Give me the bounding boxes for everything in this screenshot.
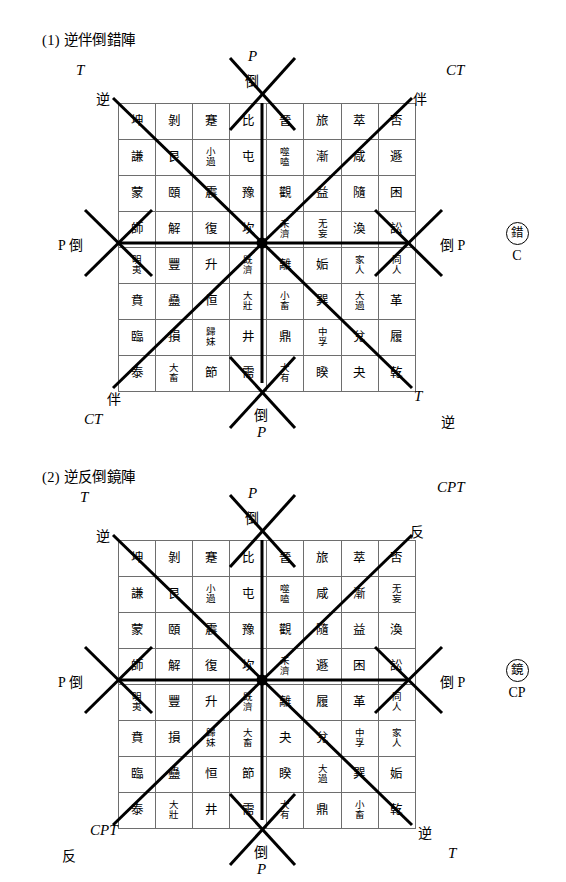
label-right-middle-1: 倒 P xyxy=(440,234,465,254)
matrix-row: 明夷豐升既濟離姤家人同人 xyxy=(119,248,416,284)
hexagram-cell: 恒 xyxy=(193,757,230,793)
figure-2-title: (2) 逆反倒鏡陣 xyxy=(42,465,135,486)
hexagram-cell: 坎 xyxy=(230,649,267,685)
hexagram-cell: 无妄 xyxy=(378,577,415,613)
hexagram-cell: 蹇 xyxy=(193,541,230,577)
figure-1-title: (1) 逆伴倒錯陣 xyxy=(42,28,135,49)
hexagram-cell: 頤 xyxy=(156,176,193,212)
hexagram-cell: 井 xyxy=(193,793,230,829)
hexagram-cell: 家人 xyxy=(341,248,378,284)
hexagram-cell: 大畜 xyxy=(230,721,267,757)
hexagram-cell: 兌 xyxy=(304,721,341,757)
hexagram-cell: 巽 xyxy=(341,757,378,793)
matrix-row: 賁損歸妹大畜夬兌中孚家人 xyxy=(119,721,416,757)
hexagram-cell: 益 xyxy=(304,176,341,212)
hexagram-cell: 謙 xyxy=(119,577,156,613)
hexagram-cell: 小畜 xyxy=(341,793,378,829)
label-bottom-center-inner-1: 倒 xyxy=(254,404,268,424)
hexagram-cell: 剝 xyxy=(156,541,193,577)
hexagram-cell: 比 xyxy=(230,104,267,140)
hexagram-cell: 未濟 xyxy=(267,212,304,248)
badge-ring-char-2: 鏡 xyxy=(506,659,529,682)
hexagram-cell: 咸 xyxy=(304,577,341,613)
hexagram-cell: 大有 xyxy=(267,793,304,829)
hexagram-cell: 乾 xyxy=(378,356,415,392)
hexagram-cell: 解 xyxy=(156,649,193,685)
hexagram-cell: 艮 xyxy=(156,140,193,176)
matrix-row: 賁蠱恒大壯小畜巽大過革 xyxy=(119,284,416,320)
hexagram-cell: 豫 xyxy=(230,176,267,212)
matrix-row: 明夷豐升既濟離履革同人 xyxy=(119,685,416,721)
hexagram-cell: 需 xyxy=(230,793,267,829)
hexagram-cell: 大壯 xyxy=(230,284,267,320)
hexagram-cell: 巽 xyxy=(304,284,341,320)
hexagram-cell: 震 xyxy=(193,176,230,212)
hexagram-cell: 損 xyxy=(156,721,193,757)
label-bottom-left-outer-1: CT xyxy=(84,411,102,428)
hexagram-cell: 同人 xyxy=(378,685,415,721)
label-top-right-inner-1: 伴 xyxy=(413,88,427,108)
label-top-center-outer-2: P xyxy=(248,485,257,502)
hexagram-cell: 家人 xyxy=(378,721,415,757)
hexagram-cell: 師 xyxy=(119,649,156,685)
hexagram-cell: 渙 xyxy=(341,212,378,248)
label-bottom-right-outer-1: 逆 xyxy=(441,411,455,431)
label-bottom-right-inner-2: 逆 xyxy=(418,822,432,842)
hexagram-cell: 夬 xyxy=(341,356,378,392)
hexagram-cell: 蠱 xyxy=(156,757,193,793)
matrix-row: 師解復坎未濟遯困訟 xyxy=(119,649,416,685)
matrix-row: 謙艮小過屯噬嗑漸咸遯 xyxy=(119,140,416,176)
label-top-center-inner-1: 倒 xyxy=(245,70,259,90)
hexagram-cell: 泰 xyxy=(119,356,156,392)
hexagram-cell: 姤 xyxy=(304,248,341,284)
hexagram-cell: 升 xyxy=(193,248,230,284)
label-bottom-left-inner-1: 伴 xyxy=(107,388,121,408)
hexagram-cell: 革 xyxy=(378,284,415,320)
badge-sub-label-2: CP xyxy=(495,685,539,701)
figure-2-badge: 鏡 CP xyxy=(495,659,539,701)
label-bottom-right-inner-1: T xyxy=(414,388,422,405)
hexagram-cell: 萃 xyxy=(341,104,378,140)
label-bottom-center-inner-2: 倒 xyxy=(254,841,268,861)
hexagram-cell: 小過 xyxy=(193,140,230,176)
badge-sub-label-1: C xyxy=(495,248,539,264)
matrix-row: 坤剝蹇比晉旅萃否 xyxy=(119,541,416,577)
hexagram-cell: 睽 xyxy=(267,757,304,793)
label-top-left-outer-1: T xyxy=(76,62,84,79)
hexagram-cell: 旅 xyxy=(304,104,341,140)
hexagram-cell: 離 xyxy=(267,248,304,284)
hexagram-cell: 未濟 xyxy=(267,649,304,685)
hexagram-cell: 睽 xyxy=(304,356,341,392)
label-top-center-inner-2: 倒 xyxy=(245,507,259,527)
matrix-row: 蒙頤震豫觀隨益渙 xyxy=(119,613,416,649)
hexagram-cell: 同人 xyxy=(378,248,415,284)
label-left-middle-1: P 倒 xyxy=(58,234,83,254)
hexagram-cell: 豐 xyxy=(156,685,193,721)
matrix-row: 坤剝蹇比晉旅萃否 xyxy=(119,104,416,140)
hexagram-cell: 漸 xyxy=(304,140,341,176)
hexagram-cell: 臨 xyxy=(119,757,156,793)
hexagram-cell: 遯 xyxy=(378,140,415,176)
hexagram-cell: 損 xyxy=(156,320,193,356)
hexagram-cell: 姤 xyxy=(378,757,415,793)
hexagram-cell: 坤 xyxy=(119,541,156,577)
hexagram-cell: 升 xyxy=(193,685,230,721)
matrix-row: 泰大畜節需大有睽夬乾 xyxy=(119,356,416,392)
hexagram-cell: 復 xyxy=(193,649,230,685)
hexagram-cell: 否 xyxy=(378,104,415,140)
hexagram-cell: 賁 xyxy=(119,721,156,757)
hexagram-cell: 豫 xyxy=(230,613,267,649)
hexagram-cell: 節 xyxy=(193,356,230,392)
hexagram-cell: 既濟 xyxy=(230,685,267,721)
hexagram-cell: 頤 xyxy=(156,613,193,649)
matrix-row: 師解復坎未濟无妄渙訟 xyxy=(119,212,416,248)
hexagram-cell: 大畜 xyxy=(156,356,193,392)
matrix-row: 臨蠱恒節睽大過巽姤 xyxy=(119,757,416,793)
hexagram-cell: 謙 xyxy=(119,140,156,176)
label-top-left-inner-1: 逆 xyxy=(96,88,110,108)
hexagram-cell: 明夷 xyxy=(119,248,156,284)
label-bottom-left-inner-2: CPT xyxy=(90,822,118,839)
label-top-right-inner-2: 反 xyxy=(410,521,424,541)
hexagram-cell: 旅 xyxy=(304,541,341,577)
label-left-middle-2: P 倒 xyxy=(58,671,83,691)
